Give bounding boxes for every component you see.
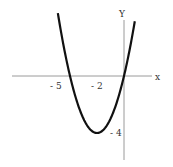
y-tick-neg4: - 4 (110, 128, 122, 138)
x-tick-neg2: - 2 (91, 81, 103, 91)
parabola-curve (58, 13, 135, 133)
y-axis-label: Y (118, 9, 126, 19)
parabola-chart: x Y - 5 - 2 - 4 (0, 0, 173, 167)
x-axis-label: x (155, 72, 160, 82)
x-tick-neg5: - 5 (50, 81, 62, 91)
